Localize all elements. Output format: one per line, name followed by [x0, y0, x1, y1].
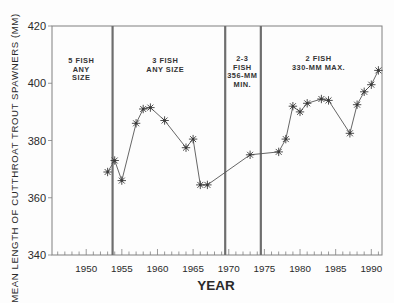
x-tick-label: 1965: [182, 263, 204, 274]
plot-border: [52, 26, 382, 255]
regulation-label-line: 330-MM MAX.: [292, 63, 345, 72]
marker-center: [356, 103, 359, 106]
asterisk-marker-icon: [111, 156, 119, 164]
x-axis-title: YEAR: [197, 278, 235, 293]
y-tick-label: 380: [28, 135, 46, 147]
marker-center: [285, 138, 288, 141]
asterisk-marker-icon: [132, 119, 140, 127]
marker-center: [363, 91, 366, 94]
asterisk-marker-icon: [146, 103, 154, 111]
region-labels: 5 FISHANYSIZE3 FISHANY SIZE2-3FISH356-MM…: [68, 54, 345, 88]
asterisk-marker-icon: [160, 116, 168, 124]
y-axis-title: MEAN LENGTH OF CUTTHROAT TROUT SPAWNERS …: [9, 13, 20, 303]
marker-center: [163, 119, 166, 122]
asterisk-marker-icon: [246, 151, 254, 159]
asterisk-marker-icon: [353, 101, 361, 109]
x-tick-label: 1950: [75, 263, 97, 274]
asterisk-marker-icon: [346, 129, 354, 137]
y-tick-label: 420: [28, 20, 46, 32]
x-tick-label: 1955: [111, 263, 133, 274]
x-tick-label: 1985: [325, 263, 347, 274]
y-tick-label: 360: [28, 192, 46, 204]
asterisk-marker-icon: [296, 108, 304, 116]
marker-center: [299, 111, 302, 114]
regulation-label: 2-3FISH356-MMMIN.: [227, 54, 257, 88]
asterisk-marker-icon: [275, 148, 283, 156]
asterisk-marker-icon: [317, 95, 325, 103]
regulation-label: 3 FISHANY SIZE: [146, 56, 184, 73]
marker-center: [370, 83, 373, 86]
x-tick-label: 1960: [147, 263, 169, 274]
x-axis: 195019551960196519701975198019851990: [58, 249, 383, 274]
marker-center: [192, 138, 195, 141]
marker-center: [349, 132, 352, 135]
asterisk-marker-icon: [289, 102, 297, 110]
asterisk-marker-icon: [324, 96, 332, 104]
regulation-label: 2 FISH330-MM MAX.: [292, 54, 345, 71]
marker-center: [277, 151, 280, 154]
marker-center: [121, 179, 124, 182]
asterisk-marker-icon: [182, 144, 190, 152]
marker-center: [249, 154, 252, 157]
asterisk-marker-icon: [374, 66, 382, 74]
x-tick-label: 1980: [289, 263, 311, 274]
asterisk-marker-icon: [203, 181, 211, 189]
plot-frame: [52, 26, 382, 255]
marker-center: [113, 159, 116, 162]
regulation-label: 5 FISHANYSIZE: [68, 56, 94, 82]
y-tick-label: 340: [28, 249, 46, 261]
marker-center: [106, 171, 109, 174]
asterisk-marker-icon: [118, 176, 126, 184]
x-tick-label: 1970: [218, 263, 240, 274]
asterisk-marker-icon: [303, 99, 311, 107]
marker-center: [142, 108, 145, 111]
marker-center: [199, 184, 202, 187]
y-axis: 340360380400420: [28, 20, 52, 261]
y-tick-label: 400: [28, 77, 46, 89]
marker-center: [292, 105, 295, 108]
regulation-label-line: MIN.: [233, 80, 251, 89]
x-tick-label: 1990: [360, 263, 382, 274]
x-tick-label: 1975: [253, 263, 275, 274]
marker-center: [306, 102, 309, 105]
marker-center: [320, 98, 323, 101]
asterisk-marker-icon: [367, 81, 375, 89]
marker-center: [149, 106, 152, 109]
regulation-label-line: SIZE: [72, 73, 90, 82]
marker-center: [327, 99, 330, 102]
marker-center: [206, 184, 209, 187]
marker-center: [185, 146, 188, 149]
marker-center: [377, 69, 380, 72]
asterisk-marker-icon: [139, 105, 147, 113]
asterisk-marker-icon: [189, 135, 197, 143]
asterisk-marker-icon: [360, 88, 368, 96]
trout-length-chart: 195019551960196519701975198019851990 340…: [0, 0, 394, 303]
asterisk-marker-icon: [282, 135, 290, 143]
regulation-label-line: ANY SIZE: [146, 65, 184, 74]
asterisk-marker-icon: [103, 168, 111, 176]
marker-center: [135, 122, 138, 125]
